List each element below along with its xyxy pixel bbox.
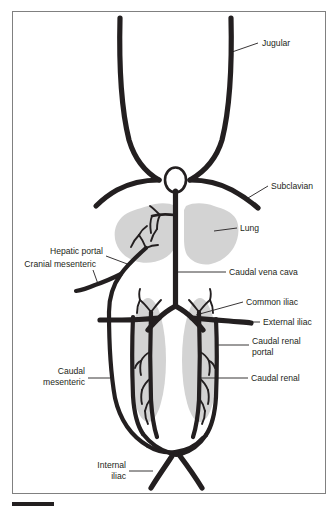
label-hepatic-portal: Hepatic portal [50,246,103,256]
label-external-iliac: External iliac [263,317,312,327]
label-caudal-renal: Caudal renal [251,373,300,383]
label-subclavian: Subclavian [271,181,313,191]
figure-root: Jugular Subclavian Lung Caudal vena cava… [0,0,336,513]
kidney-right-twig-low-b [208,390,209,404]
kidney-right-twig-top-d [210,289,211,300]
label-common-iliac: Common iliac [246,297,299,307]
kidney-left-twig-low-b [141,390,142,404]
label-jugular: Jugular [262,38,290,48]
label-caudal-renal-portal-line1: Caudal renal [252,336,301,346]
label-caudal-renal-portal-line2: portal [252,347,274,357]
kidney-left-twig-top-d [139,289,140,300]
venous-system-diagram: Jugular Subclavian Lung Caudal vena cava… [0,0,336,513]
label-caudal-mesenteric-line2: mesenteric [43,377,86,387]
label-lung: Lung [240,223,259,233]
kidney-left-twig-mid-b [140,361,141,375]
label-caudal-vena-cava: Caudal vena cava [229,267,298,277]
kidney-right-twig-mid-b [209,361,210,375]
label-internal-iliac-line2: iliac [111,471,127,481]
label-cranial-mesenteric: Cranial mesenteric [24,259,96,269]
scale-bar [12,502,54,506]
label-internal-iliac-line1: Internal [97,460,126,470]
label-caudal-mesenteric-line1: Caudal [58,366,85,376]
